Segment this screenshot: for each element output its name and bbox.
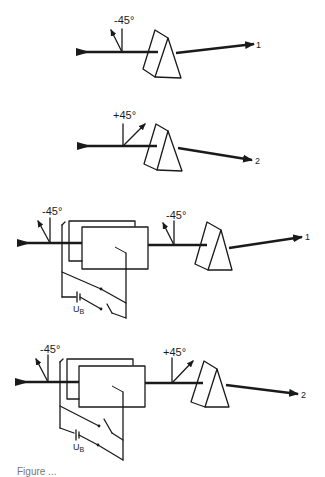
input-arrowhead-icon — [76, 48, 90, 56]
panel-1: -45° 1 — [76, 14, 261, 78]
prism-icon — [195, 222, 232, 270]
polarization-arrow — [163, 223, 174, 245]
panel-3: -45° UB -45° — [17, 205, 310, 318]
output-label: 1 — [305, 232, 310, 242]
input-arrowhead-icon — [17, 239, 31, 247]
input-polarization-label: -45° — [40, 343, 60, 355]
polarization-label: +45° — [163, 346, 186, 358]
voltage-circuit: UB — [60, 406, 123, 460]
output-beam-arrow — [226, 385, 298, 394]
panel-2: +45° 2 — [77, 109, 260, 171]
polarization-arrow — [123, 124, 145, 146]
polarization-label: -45° — [166, 209, 186, 221]
prism-icon — [144, 124, 182, 171]
switch-icon — [104, 419, 112, 433]
output-label: 2 — [301, 390, 306, 400]
input-arrowhead-icon — [15, 378, 29, 386]
input-arrowhead-icon — [77, 142, 91, 150]
output-beam-arrow — [229, 237, 302, 248]
input-polarization-label: -45° — [42, 205, 62, 217]
voltage-label: UB — [73, 304, 85, 315]
voltage-circuit: UB — [62, 272, 126, 318]
polarization-arrow — [111, 30, 122, 52]
output-label: 2 — [255, 156, 260, 166]
figure-caption: Figure ... — [17, 466, 56, 477]
polarization-arrow — [172, 361, 193, 383]
panel-4: -45° UB +45° — [15, 343, 306, 460]
voltage-label: UB — [73, 442, 85, 453]
output-label: 1 — [256, 40, 261, 50]
polarization-label: -45° — [114, 14, 134, 26]
output-beam-arrow — [178, 148, 252, 160]
polarization-label: +45° — [113, 109, 136, 121]
output-beam-arrow — [176, 44, 254, 53]
polarization-arrow — [38, 221, 50, 243]
polarization-arrow — [36, 359, 48, 382]
prism-icon — [143, 30, 181, 78]
switch-icon — [107, 304, 112, 313]
prism-icon — [191, 361, 229, 407]
